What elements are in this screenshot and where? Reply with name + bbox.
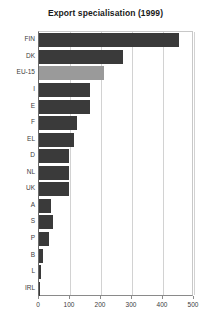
bar-row xyxy=(39,50,194,64)
chart-title: Export specialisation (1999) xyxy=(0,8,211,18)
bar-row xyxy=(39,199,194,213)
bar-row xyxy=(39,265,194,279)
bar-b xyxy=(39,249,43,263)
bar-nl xyxy=(39,166,69,180)
bar-row xyxy=(39,282,194,296)
bar-p xyxy=(39,232,49,246)
category-label-uk: UK xyxy=(26,181,35,195)
bar-row xyxy=(39,182,194,196)
bar-row xyxy=(39,232,194,246)
bar-row xyxy=(39,249,194,263)
bar-row xyxy=(39,116,194,130)
bar-row xyxy=(39,33,194,47)
bar-row xyxy=(39,83,194,97)
category-label-irl: IRL xyxy=(25,281,35,295)
category-label-l: L xyxy=(31,264,35,278)
x-tick-mark xyxy=(131,296,132,299)
x-tick-mark xyxy=(193,296,194,299)
bar-s xyxy=(39,215,53,229)
bar-a xyxy=(39,199,51,213)
bar-dk xyxy=(39,50,123,64)
bar-row xyxy=(39,166,194,180)
category-label-i: I xyxy=(33,82,35,96)
category-label-e: E xyxy=(31,99,35,113)
bar-d xyxy=(39,149,69,163)
x-tick-label: 200 xyxy=(85,301,115,308)
category-label-dk: DK xyxy=(26,49,35,63)
bar-uk xyxy=(39,182,69,196)
bar-row xyxy=(39,215,194,229)
x-tick-label: 100 xyxy=(54,301,84,308)
bar-irl xyxy=(39,282,40,296)
plot-area xyxy=(38,31,193,296)
x-tick-mark xyxy=(162,296,163,299)
bar-f xyxy=(39,116,77,130)
bar-i xyxy=(39,83,90,97)
category-label-el: EL xyxy=(27,132,35,146)
bar-row xyxy=(39,133,194,147)
bar-row xyxy=(39,66,194,80)
x-tick-mark xyxy=(100,296,101,299)
bar-e xyxy=(39,100,90,114)
category-label-b: B xyxy=(31,248,35,262)
category-label-a: A xyxy=(31,198,35,212)
category-label-f: F xyxy=(31,115,35,129)
x-tick-mark xyxy=(38,296,39,299)
bar-row xyxy=(39,100,194,114)
category-label-eu-15: EU-15 xyxy=(17,65,35,79)
bar-fin xyxy=(39,33,179,47)
x-tick-label: 300 xyxy=(116,301,146,308)
bar-row xyxy=(39,149,194,163)
x-tick-label: 500 xyxy=(178,301,208,308)
x-tick-label: 0 xyxy=(23,301,53,308)
category-label-s: S xyxy=(31,214,35,228)
category-label-fin: FIN xyxy=(25,32,35,46)
x-tick-mark xyxy=(69,296,70,299)
x-tick-label: 400 xyxy=(147,301,177,308)
bar-eu-15 xyxy=(39,66,104,80)
bar-el xyxy=(39,133,74,147)
gridline xyxy=(194,32,195,295)
bar-chart: Export specialisation (1999) FINDKEU-15I… xyxy=(0,0,211,326)
category-label-nl: NL xyxy=(27,165,35,179)
category-label-p: P xyxy=(31,231,35,245)
bar-l xyxy=(39,265,41,279)
category-label-d: D xyxy=(30,148,35,162)
